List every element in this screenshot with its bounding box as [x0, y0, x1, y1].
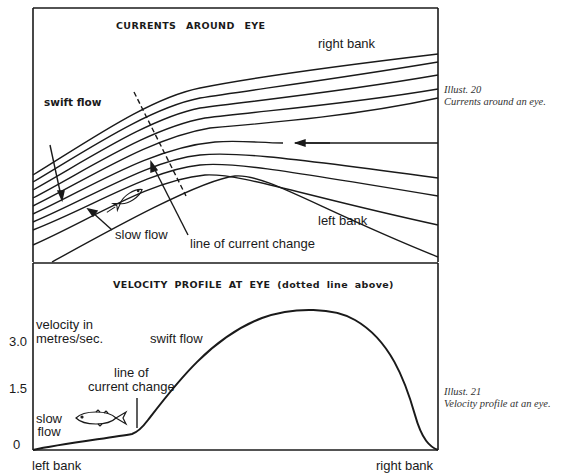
current-streamlines — [33, 54, 438, 262]
swift-flow-label-top: swift flow — [44, 96, 102, 108]
flow-arrows — [50, 140, 330, 235]
y-axis-label-line1: velocity in — [36, 318, 103, 332]
y-axis-label-line2: metres/sec. — [36, 332, 103, 346]
fish-icon-bottom — [76, 410, 126, 426]
x-axis-right-bank: right bank — [376, 458, 433, 473]
y-tick-1-5: 1.5 — [9, 381, 27, 396]
slow-flow-line2: flow — [36, 425, 62, 438]
x-axis-left-bank: left bank — [32, 458, 81, 473]
left-bank-label-top: left bank — [318, 213, 367, 228]
slow-flow-label-bottom: slow flow — [36, 412, 62, 438]
currents-title: CURRENTS AROUND EYE — [116, 20, 265, 31]
slow-flow-label-top: slow flow — [115, 227, 168, 242]
caption-text: Currents around an eye. — [444, 96, 546, 108]
right-bank-label-top: right bank — [318, 36, 375, 51]
bottom-panel-frame — [33, 263, 438, 450]
line-of-change-line1: line of — [88, 366, 175, 380]
top-panel-frame — [33, 8, 438, 263]
caption-text: Velocity profile at an eye. — [444, 398, 551, 410]
y-tick-0: 0 — [13, 437, 20, 452]
y-tick-3-0: 3.0 — [9, 334, 27, 349]
caption-illust-21: Illust. 21 Velocity profile at an eye. — [444, 386, 551, 410]
velocity-profile-title: VELOCITY PROFILE AT EYE (dotted line abo… — [113, 279, 394, 290]
line-of-change-label-bottom: line of current change — [88, 366, 175, 394]
line-of-change-line2: current change — [88, 380, 175, 394]
caption-illust-20: Illust. 20 Currents around an eye. — [444, 84, 546, 108]
line-of-change-label-top: line of current change — [190, 236, 315, 251]
y-axis-label: velocity in metres/sec. — [36, 318, 103, 346]
caption-number: Illust. 21 — [444, 386, 551, 398]
swift-flow-label-bottom: swift flow — [150, 331, 203, 346]
caption-number: Illust. 20 — [444, 84, 546, 96]
